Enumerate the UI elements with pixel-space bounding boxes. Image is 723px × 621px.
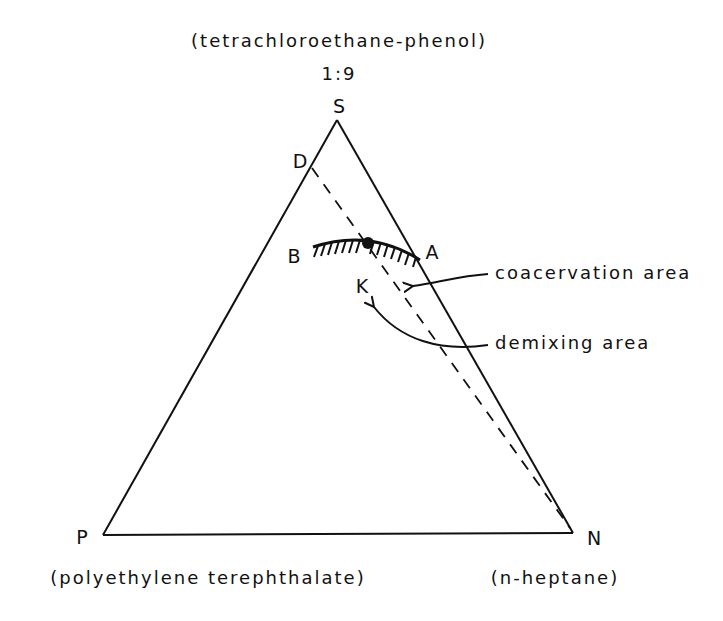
nonsolvent-component-label: (n-heptane): [491, 567, 619, 588]
vertex-s-label: S: [333, 95, 345, 117]
critical-point: [362, 237, 374, 249]
binodal-curve: [313, 237, 420, 267]
coacervation-arrow: [413, 274, 488, 286]
triangle-outline: [103, 120, 573, 535]
vertex-n-label: N: [587, 527, 601, 549]
polymer-component-label: (polyethylene terephthalate): [50, 567, 365, 588]
demixing-area-label: demixing area: [495, 332, 650, 353]
point-b-label: B: [287, 245, 300, 267]
point-k-label: K: [356, 275, 369, 297]
demixing-arrow: [374, 307, 488, 347]
ternary-diagram: (tetrachloroethane-phenol) 1:9 S P N D B…: [0, 0, 723, 621]
point-d-label: D: [293, 150, 308, 172]
point-a-label: A: [426, 241, 439, 263]
solvent-component-label: (tetrachloroethane-phenol): [191, 30, 487, 51]
solvent-ratio-label: 1:9: [322, 63, 357, 84]
coacervation-area-label: coacervation area: [495, 262, 691, 283]
vertex-p-label: P: [76, 526, 87, 548]
